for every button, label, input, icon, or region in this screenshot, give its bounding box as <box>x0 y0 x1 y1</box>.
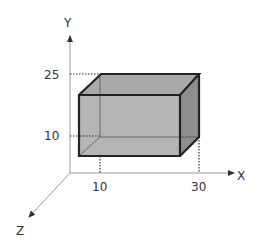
x-tick-10: 10 <box>92 180 107 194</box>
y-tick-25: 25 <box>44 68 59 82</box>
y-tick-10: 10 <box>44 129 59 143</box>
x-tick-30: 30 <box>191 180 206 194</box>
z-axis-label: Z <box>16 224 24 238</box>
y-axis-label: Y <box>63 16 72 30</box>
z-axis <box>29 173 70 217</box>
box-front-face <box>79 95 180 156</box>
3d-box-diagram: Y X Z 25 10 10 30 <box>0 0 259 249</box>
x-axis-label: X <box>237 169 245 183</box>
